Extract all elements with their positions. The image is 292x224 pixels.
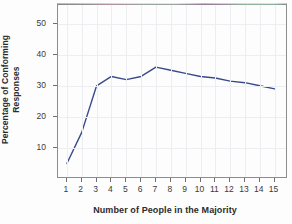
y-axis-tick-label: 20 xyxy=(22,111,46,121)
x-axis-tick-mark xyxy=(110,178,111,182)
vertical-gridline xyxy=(201,5,202,177)
x-axis-tick-label: 6 xyxy=(138,184,143,194)
vertical-gridline xyxy=(215,5,216,177)
vertical-gridline xyxy=(67,5,68,177)
vertical-gridline xyxy=(156,5,157,177)
y-axis-tick-label: 40 xyxy=(22,49,46,59)
vertical-gridline xyxy=(82,5,83,177)
x-axis-tick-mark xyxy=(229,178,230,182)
vertical-gridline xyxy=(111,5,112,177)
x-axis-tick-label: 13 xyxy=(239,184,248,194)
y-axis-tick-label: 50 xyxy=(22,18,46,28)
x-axis-tick-mark xyxy=(66,178,67,182)
x-axis-tick-label: 5 xyxy=(123,184,128,194)
x-axis-title: Number of People in the Majority xyxy=(40,205,290,215)
vertical-gridline xyxy=(186,5,187,177)
x-axis-tick-label: 3 xyxy=(93,184,98,194)
vertical-gridline xyxy=(97,5,98,177)
line-chart-figure: Percentage of Conforming Responses 10203… xyxy=(0,0,292,224)
vertical-gridline xyxy=(171,5,172,177)
x-axis-tick-label: 4 xyxy=(108,184,113,194)
x-axis-tick-label: 9 xyxy=(182,184,187,194)
vertical-gridline xyxy=(275,5,276,177)
data-series-line xyxy=(58,5,287,178)
x-axis-tick-mark xyxy=(214,178,215,182)
vertical-gridline xyxy=(230,5,231,177)
x-axis-tick-labels: 123456789101112131415 xyxy=(57,184,287,196)
y-axis-title: Percentage of Conforming Responses xyxy=(0,0,22,178)
vertical-gridline xyxy=(126,5,127,177)
y-axis-tick-label: 10 xyxy=(22,142,46,152)
x-axis-tick-marks xyxy=(57,178,287,183)
horizontal-gridline xyxy=(58,86,286,87)
x-axis-tick-mark xyxy=(185,178,186,182)
x-axis-tick-label: 12 xyxy=(224,184,233,194)
x-axis-tick-mark xyxy=(200,178,201,182)
horizontal-gridline xyxy=(58,117,286,118)
x-axis-tick-label: 1 xyxy=(64,184,69,194)
x-axis-tick-label: 11 xyxy=(210,184,219,194)
x-axis-tick-mark xyxy=(259,178,260,182)
x-axis-tick-label: 10 xyxy=(195,184,204,194)
x-axis-tick-mark xyxy=(274,178,275,182)
x-axis-tick-mark xyxy=(155,178,156,182)
y-axis-title-line-1: Percentage of Conforming xyxy=(1,34,12,143)
x-axis-tick-mark xyxy=(170,178,171,182)
x-axis-tick-mark xyxy=(140,178,141,182)
vertical-gridline xyxy=(260,5,261,177)
x-axis-tick-label: 8 xyxy=(167,184,172,194)
horizontal-gridline xyxy=(58,24,286,25)
y-axis-tick-label: 30 xyxy=(22,80,46,90)
x-axis-tick-label: 7 xyxy=(153,184,158,194)
x-axis-tick-mark xyxy=(125,178,126,182)
x-axis-tick-label: 14 xyxy=(254,184,263,194)
y-axis-tick-labels: 1020304050 xyxy=(22,0,46,178)
plot-area xyxy=(57,4,287,178)
x-axis-tick-mark xyxy=(81,178,82,182)
y-axis-tick-marks xyxy=(49,0,57,178)
vertical-gridline xyxy=(245,5,246,177)
x-axis-tick-label: 15 xyxy=(269,184,278,194)
x-axis-tick-mark xyxy=(244,178,245,182)
horizontal-gridline xyxy=(58,55,286,56)
x-axis-tick-label: 2 xyxy=(78,184,83,194)
horizontal-gridline xyxy=(58,148,286,149)
y-axis-title-line-2: Responses xyxy=(11,34,22,143)
x-axis-tick-mark xyxy=(96,178,97,182)
vertical-gridline xyxy=(141,5,142,177)
